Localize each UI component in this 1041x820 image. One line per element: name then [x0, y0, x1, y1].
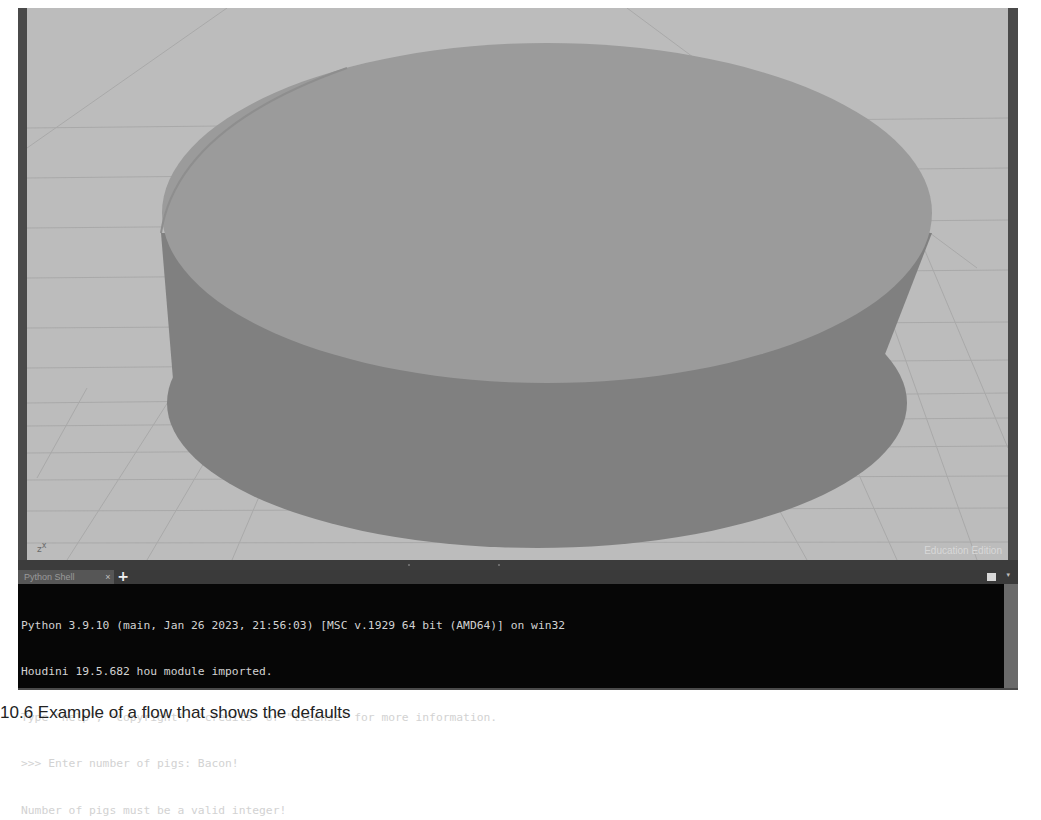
close-tab-icon[interactable]: × [102, 572, 114, 582]
education-edition-watermark: Education Edition [924, 545, 1002, 556]
tab-python-shell[interactable]: Python Shell × [18, 570, 114, 584]
viewport-scene [27, 8, 1008, 560]
houdini-window: zx Education Edition Python Shell × + ▾ … [18, 8, 1018, 690]
splitter-grip-dot [408, 564, 410, 566]
scene-viewport[interactable]: zx Education Edition [27, 8, 1008, 560]
maximize-pane-icon[interactable] [987, 573, 996, 581]
axis-indicator: zx [37, 541, 46, 554]
shell-line: >>> Enter number of pigs: Bacon! [21, 756, 1000, 771]
cylinder-top [162, 43, 932, 383]
shell-line: Number of pigs must be a valid integer! [21, 803, 1000, 818]
shell-line: Python 3.9.10 (main, Jan 26 2023, 21:56:… [21, 618, 1000, 633]
add-tab-button[interactable]: + [116, 569, 130, 583]
figure-caption: 10.6 Example of a flow that shows the de… [0, 703, 351, 723]
shell-scrollbar[interactable] [1004, 584, 1018, 688]
axis-x-label: x [42, 541, 47, 550]
pane-splitter[interactable] [18, 560, 1018, 570]
pane-tab-bar: Python Shell × + ▾ [18, 570, 1018, 584]
tab-label: Python Shell [18, 572, 102, 582]
pane-menu-dropdown-icon[interactable]: ▾ [1006, 571, 1010, 579]
splitter-grip-dot [498, 564, 500, 566]
python-shell-console[interactable]: Python 3.9.10 (main, Jan 26 2023, 21:56:… [18, 584, 1004, 688]
shell-line: Houdini 19.5.682 hou module imported. [21, 664, 1000, 679]
